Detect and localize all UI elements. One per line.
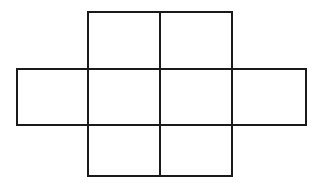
grid-cell xyxy=(17,69,88,125)
grid-cell xyxy=(160,69,232,125)
grid-cell xyxy=(88,69,160,125)
grid-cell xyxy=(88,125,160,176)
grid-cell xyxy=(160,125,232,176)
cell-grid-diagram xyxy=(0,0,325,189)
grid-cell xyxy=(88,12,160,69)
grid-cell xyxy=(232,69,306,125)
grid-cell xyxy=(160,12,232,69)
